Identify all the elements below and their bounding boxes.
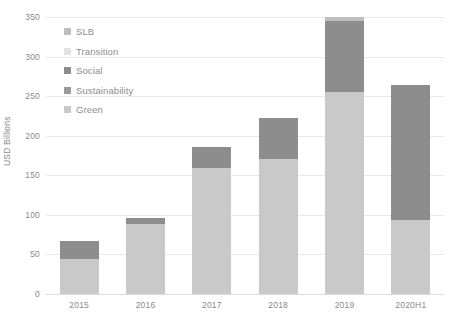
bar-segment-green[interactable] [259,159,298,294]
y-axis-tick-label: 200 [8,131,40,141]
x-axis-tick-label: 2015 [46,300,112,310]
bar-segment-green[interactable] [192,168,231,294]
legend-item-green[interactable]: Green [64,100,133,120]
bar-segment-social[interactable] [391,85,430,220]
legend-swatch-icon [64,48,71,55]
bar-group[interactable] [259,17,298,294]
gridline [46,294,444,295]
bar-segment-social[interactable] [259,118,298,159]
legend-swatch-icon [64,28,71,35]
bar-stack [391,85,430,294]
bar-segment-social[interactable] [192,147,231,168]
legend-item-label: Sustainability [76,85,133,96]
bar-group[interactable] [325,17,364,294]
x-axis-tick-label: 2016 [112,300,178,310]
stacked-bar-chart: USD Billions 050100150200250300350 20152… [0,0,454,328]
y-axis-tick-label: 350 [8,12,40,22]
legend-swatch-icon [64,87,71,94]
legend-item-sustainability[interactable]: Sustainability [64,81,133,101]
bar-segment-green[interactable] [325,92,364,294]
bar-group[interactable] [192,17,231,294]
x-axis-tick-label: 2019 [311,300,377,310]
legend-item-social[interactable]: Social [64,61,133,81]
y-axis-tick-label: 150 [8,170,40,180]
bar-group[interactable] [391,17,430,294]
bar-stack [126,218,165,294]
legend-item-label: Green [76,104,103,115]
y-axis-tick-label: 50 [8,249,40,259]
legend-item-label: SLB [76,26,94,37]
bar-segment-social[interactable] [60,241,99,259]
chart-legend: SLBTransitionSocialSustainabilityGreen [64,22,133,120]
bar-segment-green[interactable] [391,220,430,294]
legend-item-label: Social [76,65,102,76]
bar-stack [192,147,231,294]
y-axis-title: USD Billions [2,116,12,166]
bar-stack [60,241,99,294]
bar-segment-green[interactable] [126,224,165,294]
bar-stack [259,118,298,294]
y-axis-tick-label: 250 [8,91,40,101]
y-axis-tick-label: 0 [8,289,40,299]
x-axis-tick-label: 2020H1 [378,300,444,310]
legend-item-transition[interactable]: Transition [64,42,133,62]
legend-item-label: Transition [76,46,118,57]
legend-swatch-icon [64,106,71,113]
y-axis-tick-label: 300 [8,52,40,62]
x-axis-tick-label: 2017 [179,300,245,310]
legend-item-slb[interactable]: SLB [64,22,133,42]
x-axis-tick-label: 2018 [245,300,311,310]
bar-stack [325,17,364,294]
y-axis-tick-label: 100 [8,210,40,220]
bar-segment-social[interactable] [325,21,364,92]
legend-swatch-icon [64,67,71,74]
bar-segment-green[interactable] [60,259,99,294]
